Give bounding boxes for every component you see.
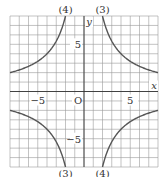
hyperbola-chart: −555−5Oxy(3)(3)(4)(4)	[0, 0, 160, 177]
y-tick-label: −5	[66, 134, 81, 145]
y-axis-label: y	[85, 16, 92, 27]
curve-label-bottom: (3)	[58, 168, 72, 177]
x-tick-label: 5	[127, 95, 133, 106]
x-axis-label: x	[151, 80, 157, 91]
curve-label-top: (3)	[95, 4, 109, 15]
curve-label-top: (4)	[58, 4, 72, 15]
x-tick-label: −5	[30, 95, 45, 106]
origin-label: O	[74, 95, 82, 106]
labels: −555−5Oxy(3)(3)(4)(4)	[30, 4, 158, 177]
y-tick-label: 5	[75, 39, 81, 50]
curve-label-bottom: (4)	[95, 168, 109, 177]
